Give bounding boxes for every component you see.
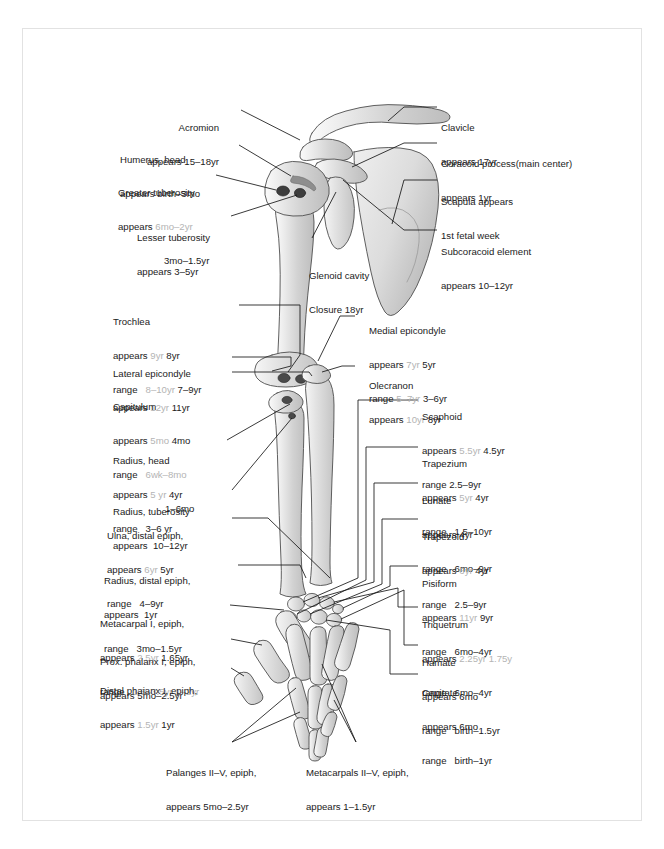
lesser-tuberosity-center [294, 188, 305, 197]
label-title: Medial epicondyle [369, 325, 447, 336]
label-glenoid-cavity[interactable]: Glenoid cavity Closure 18yr [309, 247, 369, 338]
leader-humerus-head [239, 145, 291, 176]
label-title: Glenoid cavity [309, 270, 369, 281]
label-title: Trochlea [113, 316, 202, 327]
label-title: Clavicle [441, 122, 497, 133]
label-title: Scapula appears [441, 196, 513, 207]
label-title: Ulna, distal epiph, [107, 530, 183, 541]
label-title: Capitate [422, 687, 492, 698]
carpal-trapezoid [297, 610, 311, 622]
leader-phalanges-2-5-b [232, 712, 300, 742]
label-title: Metacarpals II–V, epiph, [306, 767, 409, 778]
label-title: Radius, distal epiph, [104, 575, 190, 586]
label-title: Lesser tuberosity [137, 232, 210, 243]
label-lesser-tuberosity[interactable]: Lesser tuberosity appears 3–5yr [137, 209, 210, 300]
phalanx-2-prox [288, 678, 311, 720]
label-row: range birth–1yr [422, 755, 492, 766]
label-title: Metacarpal I, epiph, [100, 618, 199, 629]
leader-metacarpal1 [230, 605, 284, 610]
bone-olecranon [302, 365, 331, 384]
label-row: appears 1–1.5yr [306, 801, 409, 812]
label-row: appears 5mo–2.5yr [166, 801, 256, 812]
label-title: Trapezium [422, 458, 492, 469]
label-title: Radius, head [113, 455, 182, 466]
leader-pisiform [343, 566, 418, 608]
label-title: Distal phaianx I, epiph, [100, 685, 197, 696]
label-row: appears 3–5yr [137, 266, 210, 277]
label-distal-phalanx-1-epiphysis[interactable]: Distal phaianx I, epiph, appears 1.5yr 1… [100, 662, 197, 753]
label-title: Lunate [422, 495, 492, 506]
greater-tuberosity-center [277, 186, 290, 196]
bone-clavicle [310, 105, 450, 145]
carpal-capitate [311, 610, 328, 624]
label-subcoracoid-element[interactable]: Subcoracoid element appears 10–12yr [441, 223, 531, 314]
label-row: appears 1.5yr 1yr [100, 719, 197, 730]
label-row: Closure 18yr [309, 304, 369, 315]
finger-rays [286, 623, 359, 761]
bone-ulna [306, 374, 335, 586]
label-title: Coracoid process(main center) [441, 158, 572, 169]
leader-phalanges-2-5-a [232, 688, 296, 742]
label-phalanges-2-5-epiphysis[interactable]: Palanges II–V, epiph, appears 5mo–2.5yr [166, 744, 256, 835]
carpal-pisiform [333, 604, 344, 613]
label-title: Triquetrum [422, 619, 512, 630]
label-title: Palanges II–V, epiph, [166, 767, 256, 778]
leader-lunate [318, 483, 418, 598]
label-row: appears 10–12yr [441, 280, 531, 291]
leader-acromion [241, 110, 300, 140]
carpal-scaphoid [288, 597, 305, 611]
label-title: Scaphoid [422, 411, 505, 422]
radial-tuberosity [289, 413, 296, 419]
leader-triquetrum [334, 588, 418, 607]
label-capitate[interactable]: Capitate appears 6mo range birth–1yr [422, 664, 492, 789]
label-title: Greater tuberosity [118, 187, 209, 198]
radial-head-center [282, 396, 292, 403]
label-title: Trapezoid [422, 531, 489, 542]
label-title: Pisiform [422, 578, 493, 589]
label-title: Subcoracoid element [441, 246, 531, 257]
trochlea-center [278, 373, 290, 382]
label-row: appears 6mo [422, 721, 492, 732]
distal-phalanx-1 [234, 672, 263, 705]
prox-phalanx-1 [254, 640, 290, 683]
label-title: Capitulum [113, 401, 194, 412]
label-metacarpals-2-5-epiphysis[interactable]: Metacarpals II–V, epiph, appears 1–1.5yr [306, 744, 409, 835]
page-root: Acromion appears 15–18yr Humerus, head a… [0, 0, 664, 849]
bone-acromion [300, 139, 353, 161]
leader-metacarpals-2-5-b [334, 700, 356, 742]
